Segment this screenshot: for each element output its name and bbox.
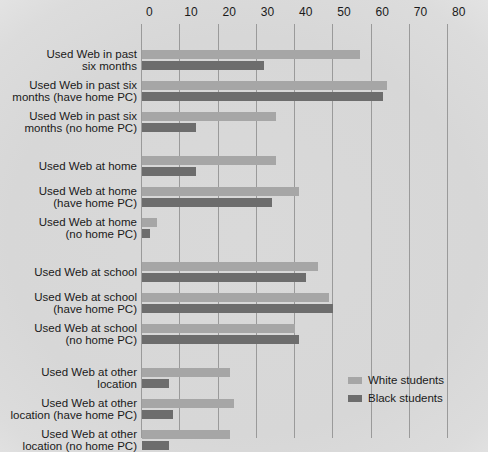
x-tick-label-0: 0 bbox=[146, 6, 153, 18]
category-label-8: Used Web at school (no home PC) bbox=[0, 322, 137, 347]
legend-label-white: White students bbox=[368, 373, 444, 388]
bar-black-students-0 bbox=[142, 61, 264, 70]
bar-black-students-5 bbox=[142, 229, 150, 238]
category-label-4: Used Web at home (have home PC) bbox=[0, 185, 137, 210]
bar-white-students-7 bbox=[142, 293, 329, 302]
category-label-1: Used Web in past six months (have home P… bbox=[0, 79, 137, 104]
x-tick-label-30: 30 bbox=[261, 6, 274, 18]
x-tick-label-50: 50 bbox=[337, 6, 350, 18]
bar-white-students-9 bbox=[142, 368, 230, 377]
bar-black-students-7 bbox=[142, 304, 333, 313]
x-tick-label-80: 80 bbox=[452, 6, 465, 18]
x-tick-label-70: 70 bbox=[414, 6, 427, 18]
legend-swatch-white-icon bbox=[348, 377, 362, 384]
chart-legend: White studentsBlack students bbox=[348, 373, 444, 409]
x-tick-label-10: 10 bbox=[184, 6, 197, 18]
category-label-5: Used Web at home (no home PC) bbox=[0, 216, 137, 241]
chart-figure: 01020304050607080 Used Web in past six m… bbox=[0, 0, 488, 452]
x-tick-label-60: 60 bbox=[376, 6, 389, 18]
category-label-3: Used Web at home bbox=[0, 160, 137, 173]
category-label-11: Used Web at other location (no home PC) bbox=[0, 428, 137, 452]
legend-item-white: White students bbox=[348, 373, 444, 388]
bar-black-students-1 bbox=[142, 92, 383, 101]
bar-white-students-1 bbox=[142, 81, 387, 90]
bar-black-students-9 bbox=[142, 379, 169, 388]
category-label-9: Used Web at other location bbox=[0, 366, 137, 391]
bar-black-students-6 bbox=[142, 273, 306, 282]
x-tick-label-40: 40 bbox=[299, 6, 312, 18]
category-label-0: Used Web in past six months bbox=[0, 48, 137, 73]
bar-black-students-3 bbox=[142, 167, 196, 176]
legend-item-black: Black students bbox=[348, 391, 444, 406]
legend-label-black: Black students bbox=[368, 391, 443, 406]
bar-white-students-10 bbox=[142, 399, 234, 408]
bar-white-students-6 bbox=[142, 262, 318, 271]
x-tick-label-20: 20 bbox=[223, 6, 236, 18]
bar-white-students-11 bbox=[142, 430, 230, 439]
bar-white-students-2 bbox=[142, 112, 276, 121]
gridline-80 bbox=[447, 24, 448, 438]
bar-black-students-2 bbox=[142, 123, 196, 132]
bar-black-students-11 bbox=[142, 441, 169, 450]
category-label-2: Used Web in past six months (no home PC) bbox=[0, 110, 137, 135]
category-label-6: Used Web at school bbox=[0, 266, 137, 279]
category-label-7: Used Web at school (have home PC) bbox=[0, 291, 137, 316]
bar-white-students-0 bbox=[142, 50, 360, 59]
bar-white-students-3 bbox=[142, 156, 276, 165]
bar-white-students-8 bbox=[142, 324, 295, 333]
bar-white-students-4 bbox=[142, 187, 299, 196]
bar-white-students-5 bbox=[142, 218, 157, 227]
category-labels: Used Web in past six monthsUsed Web in p… bbox=[0, 44, 137, 438]
bar-black-students-4 bbox=[142, 198, 272, 207]
bar-black-students-8 bbox=[142, 335, 299, 344]
category-label-10: Used Web at other location (have home PC… bbox=[0, 397, 137, 422]
bar-black-students-10 bbox=[142, 410, 173, 419]
legend-swatch-black-icon bbox=[348, 395, 362, 402]
